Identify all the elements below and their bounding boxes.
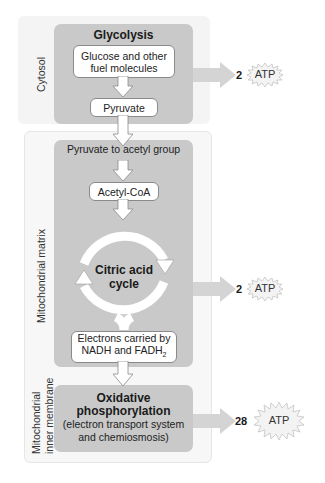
citric-acid-cycle-label: Citric acid cycle: [85, 263, 163, 291]
oxphos-desc-line1: (electron transport system: [54, 418, 193, 431]
cycle-line1: Citric acid: [85, 263, 163, 277]
cycle-line2: cycle: [85, 277, 163, 291]
atp-count-oxphos: 28: [235, 415, 247, 427]
electrons-to-oxphos-arrow: [113, 361, 133, 387]
atp-count-cac: 2: [236, 283, 242, 295]
oxphos-label: Oxidative phosphorylation (electron tran…: [54, 392, 193, 443]
oxphos-desc-line2: and chemiosmosis): [54, 431, 193, 444]
atp-label-oxphos: ATP: [254, 414, 304, 426]
electrons-line2: NADH and FADH2: [81, 344, 166, 361]
oxphos-atp-arrow: [188, 408, 238, 434]
pyruvate-to-acetyl-label: Pyruvate to acetyl group: [54, 143, 193, 155]
atp-label-cac: ATP: [247, 282, 283, 294]
glucose-box: Glucose and other fuel molecules: [73, 45, 175, 78]
atp-burst-glycolysis: ATP: [247, 63, 283, 87]
inner-membrane-label-line1: Mitochondrial: [30, 392, 42, 454]
glucose-line2: fuel molecules: [90, 62, 157, 74]
cac-atp-arrow: [188, 276, 238, 302]
atp-label-glycolysis: ATP: [247, 68, 283, 80]
cytosol-label: Cytosol: [35, 57, 47, 92]
glycolysis-atp-arrow: [188, 62, 238, 88]
glucose-line1: Glucose and other: [81, 50, 167, 62]
pyruvate-to-acetyl-arrow: [113, 160, 133, 182]
atp-count-glycolysis: 2: [236, 69, 242, 81]
electrons-box: Electrons carried by NADH and FADH2: [71, 331, 177, 363]
oxphos-title-line2: phosphorylation: [54, 405, 193, 418]
electrons-line1: Electrons carried by: [78, 332, 171, 344]
glycolysis-title: Glycolysis: [54, 28, 193, 42]
atp-burst-cac: ATP: [247, 277, 283, 301]
mitochondrial-matrix-label: Mitochondrial matrix: [35, 229, 47, 323]
glucose-to-pyruvate-arrow: [113, 76, 133, 98]
atp-burst-oxphos: ATP: [254, 402, 304, 440]
